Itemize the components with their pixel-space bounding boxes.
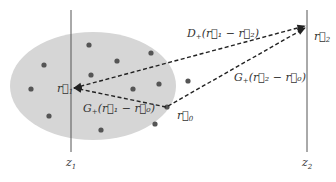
scatterer-dot [41,62,46,67]
label-z1: z1 [65,156,76,171]
scatterer-dot [152,121,157,126]
scatterer-dot [130,86,135,91]
label-r0: r⃗0 [177,109,194,123]
scatterer-dot [46,113,51,118]
label-r2: r⃗2 [314,30,331,44]
diagram-canvas: r⃗1 r⃗2 r⃗0 D+(r⃗₁ − r⃗₂) G+(r⃗₂ − r⃗₀) … [0,0,336,182]
scatterer-dot [28,86,33,91]
label-D-propagator: D+(r⃗₁ − r⃗₂) [186,27,259,41]
scatterer-dot [88,72,93,77]
scatterer-dot [185,78,190,83]
label-G-r2-r0: G+(r⃗₂ − r⃗₀) [234,71,306,85]
scatterer-dot [114,58,119,63]
scatterer-dot [156,81,161,86]
scatterer-dot [148,50,153,55]
scatterer-dot [86,42,91,47]
label-z2: z2 [301,156,313,171]
scatterer-dot [98,127,103,132]
scattering-region [10,32,176,140]
